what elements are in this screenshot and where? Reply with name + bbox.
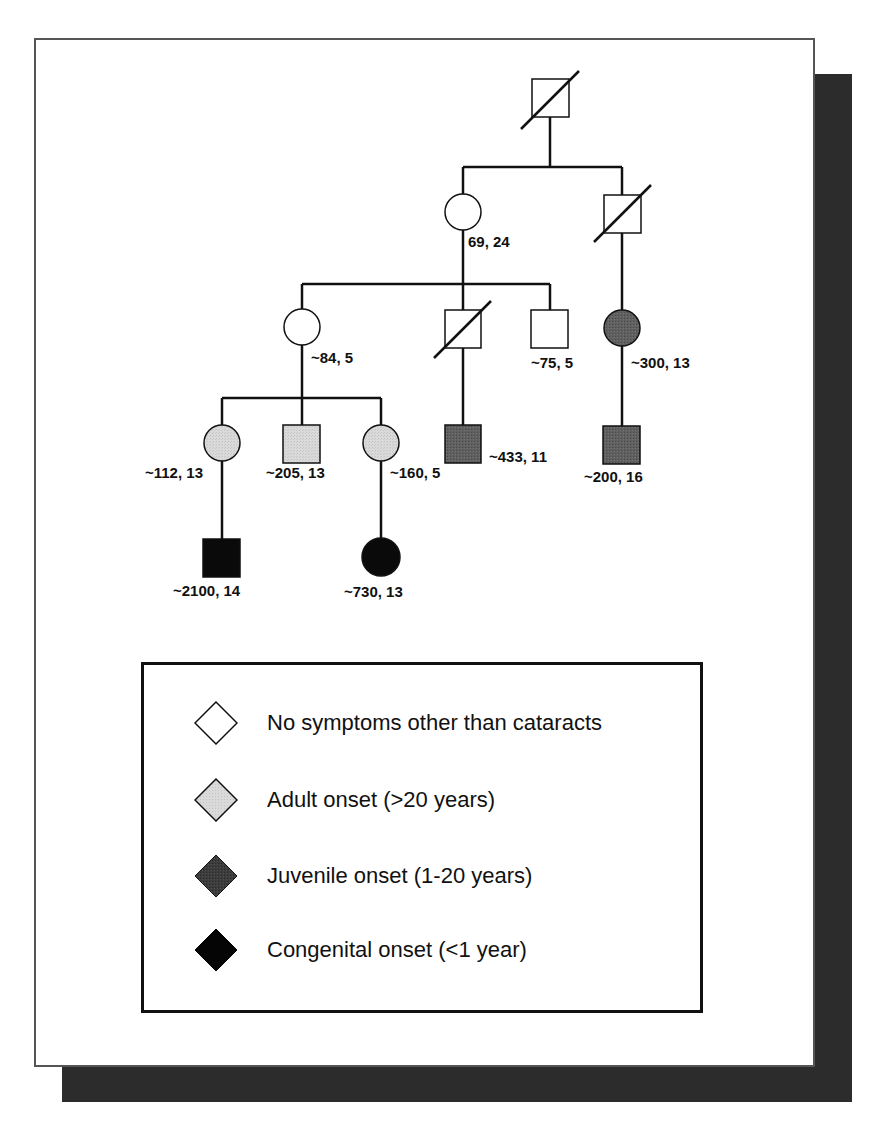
individual-g3-daughter: ~84, 5 — [284, 309, 353, 366]
female-circle-icon — [362, 538, 400, 576]
male-square-icon — [203, 539, 240, 577]
individual-g2-mother: 69, 24 — [445, 194, 510, 250]
white-diamond-icon — [194, 701, 238, 745]
light-gray-diamond-icon — [194, 778, 238, 822]
individual-label: ~200, 16 — [584, 468, 643, 485]
legend-label: Congenital onset (<1 year) — [267, 937, 527, 963]
individual-g5-girl: ~730, 13 — [344, 538, 403, 600]
legend-label: No symptoms other than cataracts — [267, 710, 602, 736]
individual-label: 69, 24 — [468, 233, 510, 250]
male-square-icon — [603, 426, 640, 464]
male-square-icon — [531, 310, 568, 348]
individual-g4-girl-2: ~160, 5 — [363, 425, 440, 481]
individual-label: ~84, 5 — [311, 349, 353, 366]
legend-box: No symptoms other than cataracts Adult o… — [141, 662, 703, 1013]
black-diamond-icon — [194, 928, 238, 972]
male-square-icon — [445, 425, 481, 463]
legend-label: Adult onset (>20 years) — [267, 787, 495, 813]
individual-g4-girl-1: ~112, 13 — [145, 425, 240, 481]
male-square-icon — [283, 425, 320, 463]
individual-label: ~75, 5 — [531, 354, 573, 371]
legend-item-unaffected: No symptoms other than cataracts — [144, 701, 700, 745]
legend-item-juvenile-onset: Juvenile onset (1-20 years) — [144, 854, 700, 898]
individual-label: ~730, 13 — [344, 583, 403, 600]
individual-g4-son-of-cousin: ~200, 16 — [584, 426, 643, 485]
female-circle-icon — [363, 425, 399, 461]
individual-g3-cousin: ~300, 13 — [604, 310, 690, 371]
individual-g4-son-of-deceased: ~433, 11 — [445, 425, 547, 465]
individual-label: ~205, 13 — [266, 464, 325, 481]
individual-g5-boy: ~2100, 14 — [173, 539, 241, 599]
individual-label: ~433, 11 — [489, 448, 547, 465]
female-circle-icon — [445, 194, 481, 230]
individual-g3-son: ~75, 5 — [531, 310, 573, 371]
individual-label: ~2100, 14 — [173, 582, 241, 599]
individual-label: ~300, 13 — [631, 354, 690, 371]
female-circle-icon — [204, 425, 240, 461]
legend-item-adult-onset: Adult onset (>20 years) — [144, 778, 700, 822]
legend-item-congenital-onset: Congenital onset (<1 year) — [144, 928, 700, 972]
individual-g4-boy: ~205, 13 — [266, 425, 325, 481]
legend-label: Juvenile onset (1-20 years) — [267, 863, 532, 889]
dark-gray-diamond-icon — [194, 854, 238, 898]
individual-label: ~160, 5 — [390, 464, 440, 481]
individual-label: ~112, 13 — [145, 464, 203, 481]
female-circle-icon — [284, 309, 320, 345]
female-circle-icon — [604, 310, 640, 346]
